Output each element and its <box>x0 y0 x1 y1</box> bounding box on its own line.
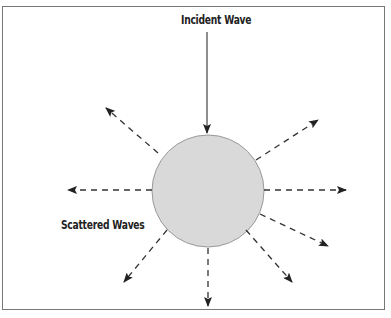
scatter-arrow-upper-left <box>106 108 158 153</box>
scatter-arrow-lower-right-steep <box>246 230 292 282</box>
scatter-arrow-lower-right <box>260 214 328 246</box>
scatter-arrow-upper-right <box>256 120 318 160</box>
scattering-diagram <box>0 0 391 318</box>
scatterer-circle <box>152 135 264 247</box>
scatter-arrow-lower-left <box>124 230 167 282</box>
